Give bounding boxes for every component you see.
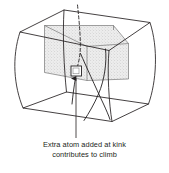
caption-line-2: contributes to climb bbox=[0, 150, 169, 160]
kink-square-marker bbox=[71, 66, 82, 76]
slip-plane bbox=[45, 26, 129, 81]
figure-root: Extra atom added at kink contributes to … bbox=[0, 0, 169, 173]
caption-line-1: Extra atom added at kink bbox=[0, 140, 169, 150]
figure-caption: Extra atom added at kink contributes to … bbox=[0, 140, 169, 160]
